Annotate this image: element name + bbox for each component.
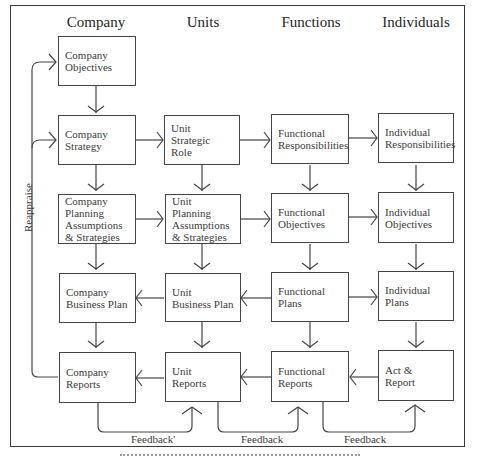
box-label-line: Reports — [278, 377, 348, 389]
box-label-line: Company — [65, 49, 135, 61]
box-label-line: Functional — [278, 206, 348, 218]
box-label-line: Functional — [278, 365, 348, 377]
box-functional-plans: Functional Plans — [271, 272, 349, 322]
box-unit-strategic-role: Unit Strategic Role — [164, 115, 240, 165]
reappraise-label: Reappraise — [22, 183, 34, 232]
box-label-line: Strategy — [65, 140, 135, 152]
box-label-line: Assumptions — [65, 219, 135, 231]
box-label-line: Functional — [278, 127, 348, 139]
box-label-line: & Strategies — [172, 231, 240, 243]
box-company-objectives: Company Objectives — [58, 36, 136, 86]
box-label-line: Company — [66, 366, 135, 378]
box-label-line: Plans — [385, 296, 453, 308]
box-label-line: Company — [66, 286, 135, 298]
box-label-line: Business Plan — [66, 298, 135, 310]
box-label-line: Reports — [66, 378, 135, 390]
box-label-line: Reports — [172, 377, 240, 389]
box-act-and-report: Act & Report — [378, 350, 454, 401]
box-label-line: Planning — [65, 207, 135, 219]
box-label-line: Individual — [385, 284, 453, 296]
box-individual-plans: Individual Plans — [378, 271, 454, 321]
box-functional-reports: Functional Reports — [271, 351, 349, 402]
box-label-line: Unit — [171, 122, 239, 134]
box-functional-objectives: Functional Objectives — [271, 193, 349, 243]
box-label-line: Objectives — [65, 61, 135, 73]
box-company-business-plan: Company Business Plan — [59, 273, 136, 323]
feedback-label-3: Feedback — [344, 433, 386, 445]
box-label-line: Company — [65, 195, 135, 207]
box-company-strategy: Company Strategy — [58, 115, 136, 165]
feedback-label-1: Feedback' — [131, 433, 175, 445]
box-label-line: Business Plan — [172, 298, 240, 310]
box-label-line: Unit — [172, 286, 240, 298]
clipped-caption — [0, 452, 480, 460]
box-label-line: Individual — [385, 206, 453, 218]
box-label-line: Act & — [385, 364, 453, 376]
box-label-line: Responsibilities — [278, 139, 348, 151]
box-label-line: Unit — [172, 195, 240, 207]
box-label-line: Assumptions — [172, 219, 240, 231]
box-unit-planning-assumptions: Unit Planning Assumptions & Strategies — [165, 194, 241, 244]
box-label-line: Role — [171, 146, 239, 158]
box-label-line: Plans — [278, 297, 348, 309]
box-individual-responsibilities: Individual Responsibilities — [378, 113, 454, 163]
box-label-line: Strategic — [171, 134, 239, 146]
box-label-line: Unit — [172, 365, 240, 377]
box-label-line: Responsibilities — [385, 138, 453, 150]
box-unit-business-plan: Unit Business Plan — [165, 273, 241, 322]
feedback-label-2: Feedback — [241, 433, 283, 445]
box-label-line: Functional — [278, 285, 348, 297]
box-label-line: Objectives — [385, 218, 453, 230]
box-company-planning-assumptions: Company Planning Assumptions & Strategie… — [58, 194, 136, 244]
box-individual-objectives: Individual Objectives — [378, 192, 454, 243]
box-label-line: & Strategies — [65, 231, 135, 243]
box-functional-responsibilities: Functional Responsibilities — [271, 114, 349, 164]
box-unit-reports: Unit Reports — [165, 352, 241, 402]
box-label-line: Individual — [385, 126, 453, 138]
box-label-line: Company — [65, 128, 135, 140]
box-label-line: Report — [385, 376, 453, 388]
box-company-reports: Company Reports — [59, 352, 136, 403]
box-label-line: Planning — [172, 207, 240, 219]
box-label-line: Objectives — [278, 218, 348, 230]
